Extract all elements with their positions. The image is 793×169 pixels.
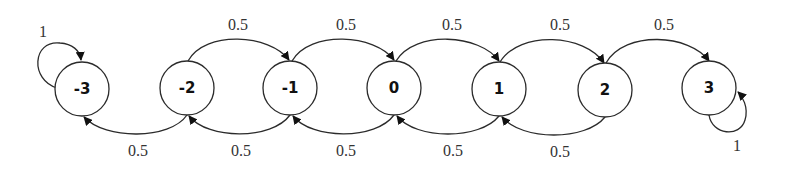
edge-1-to-2: 0.5 [500,16,604,64]
node-label: 2 [600,81,610,99]
node-label: 0 [389,79,399,97]
node-minus-1: -1 [263,61,317,115]
edge-label: 0.5 [550,143,570,160]
node-minus-3: -3 [55,62,109,116]
edge-label: 0.5 [654,16,674,33]
node-3: 3 [682,61,736,115]
edge-label: 0.5 [550,16,570,33]
edge-2-to-1: 0.5 [502,117,605,160]
edge-label: 0.5 [231,142,251,159]
node-label: -1 [282,79,299,97]
node-label: -2 [179,79,196,97]
edge-0-to-1: 0.5 [396,16,499,62]
node-label: 1 [494,80,504,98]
edge-1-to-0: 0.5 [397,116,499,159]
node-1: 1 [472,62,526,116]
node-minus-2: -2 [160,61,214,115]
edge-label: 0.5 [443,142,463,159]
edge-label: 0.5 [228,16,248,33]
edge-2-to-3: 0.5 [606,16,709,64]
node-label: -3 [74,80,91,98]
node-2: 2 [578,63,632,117]
node-label: 3 [704,79,714,97]
markov-chain-diagram: 1 1 0.5 0.5 0.5 0.5 0.5 0.5 0.5 0.5 0. [0,0,793,169]
edge-label: 0.5 [128,142,148,159]
edge-minus2-to-minus1: 0.5 [188,16,289,62]
edge-label: 1 [733,137,741,154]
edge-label: 0.5 [336,142,356,159]
edge-minus2-to-minus3: 0.5 [84,115,187,159]
edge-0-to-minus1: 0.5 [293,115,394,159]
edge-minus1-to-minus2: 0.5 [189,115,290,159]
edge-minus1-to-0: 0.5 [292,16,394,62]
node-0: 0 [367,61,421,115]
edge-label: 0.5 [442,16,462,33]
edge-label: 0.5 [336,16,356,33]
edge-label: 1 [39,23,47,40]
